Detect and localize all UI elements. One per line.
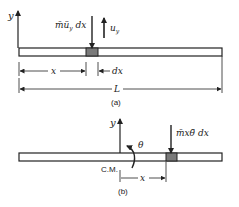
dx-dim-label: dx <box>112 66 123 76</box>
inertia-force-label: m̄xθ̈ dx <box>176 128 209 138</box>
inertia-force-label: m̄üy dx <box>55 20 86 32</box>
beam <box>19 153 222 161</box>
beam-element <box>166 153 177 161</box>
displacement-label: uy <box>110 23 120 35</box>
x-dim-label: x <box>51 66 56 76</box>
theta-label: θ <box>138 140 144 150</box>
diagram-svg: y m̄üy dx uy x dx <box>0 0 239 207</box>
caption-b: (b) <box>118 187 128 196</box>
cm-label: C.M. <box>101 165 118 174</box>
caption-a: (a) <box>111 98 121 107</box>
length-label: L <box>113 84 120 94</box>
beam-element <box>86 48 98 56</box>
beam-diagram: y m̄üy dx uy x dx <box>0 0 239 207</box>
y-axis-label: y <box>7 10 14 21</box>
figure-a: y m̄üy dx uy x dx <box>7 10 222 107</box>
y-axis-label: y <box>109 117 116 128</box>
x-dim-label: x <box>140 173 145 183</box>
beam <box>19 48 222 56</box>
figure-b: y θ m̄xθ̈ dx C.M. x (b) <box>19 117 222 196</box>
